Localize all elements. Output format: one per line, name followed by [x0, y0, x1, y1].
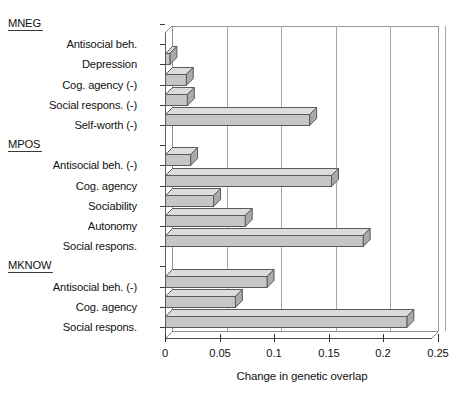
y-axis-tick [160, 266, 165, 267]
y-axis-category-label: Social respons. (-) [49, 99, 137, 111]
bar [165, 289, 244, 309]
x-axis-tick-label: 0.2 [375, 347, 390, 359]
bar [165, 168, 340, 188]
x-axis-line [165, 338, 432, 339]
y-axis-category-label: Social respons. [63, 240, 137, 252]
y-axis-category-label: Antisocial beh. [66, 38, 137, 50]
x-axis-floor-back-edge [172, 331, 438, 332]
x-axis-tick-0 [165, 334, 166, 342]
bar [165, 107, 318, 127]
y-axis-label-column: MNEGAntisocial beh.DepressionCog. agency… [0, 0, 140, 345]
y-axis-group-label-mknow: MKNOW [8, 259, 53, 273]
bar [165, 46, 178, 66]
bar [165, 67, 195, 87]
x-axis-tick-label: 0.05 [209, 347, 230, 359]
x-axis-tick-label: 0.15 [318, 347, 339, 359]
y-axis-tick [160, 44, 165, 45]
y-axis-category-label: Self-worth (-) [74, 119, 137, 131]
plot-wall-top-connector [165, 26, 174, 35]
y-axis-tick [160, 145, 165, 146]
gridline-x-0.25 [445, 26, 446, 331]
y-axis-category-label: Cog. agency (-) [62, 79, 137, 91]
x-axis-floor-left-edge [165, 331, 174, 340]
y-axis-category-label: Cog. agency [76, 180, 137, 192]
bar-chart: MNEGAntisocial beh.DepressionCog. agency… [0, 0, 458, 395]
bar [165, 309, 415, 329]
bar [165, 228, 372, 248]
y-axis-category-label: Sociability [88, 200, 137, 212]
x-axis-tick-label: 0.1 [266, 347, 281, 359]
y-axis-category-label: Antisocial beh. (-) [53, 281, 137, 293]
y-axis-category-label: Antisocial beh. (-) [53, 159, 137, 171]
x-axis-tick-0.15 [329, 334, 330, 342]
x-axis-tick-0.2 [383, 334, 384, 342]
y-axis-category-label: Social respons. [63, 321, 137, 333]
bar [165, 147, 199, 167]
x-axis-tick-0.25 [438, 334, 439, 342]
x-axis-tick-label: 0 [162, 347, 168, 359]
y-axis-tick [160, 24, 165, 25]
x-axis-tick-0.1 [274, 334, 275, 342]
x-axis-title: Change in genetic overlap [236, 370, 367, 383]
y-axis-category-label: Depression [82, 58, 137, 70]
gridline-x-0.2 [390, 26, 391, 331]
y-axis-group-label-mneg: MNEG [8, 17, 43, 31]
y-axis-group-label-mpos: MPOS [8, 138, 42, 152]
x-axis-tick-label: 0.25 [427, 347, 448, 359]
bar [165, 188, 222, 208]
bar [165, 87, 196, 107]
bar [165, 208, 254, 228]
bar [165, 269, 276, 289]
y-axis-category-label: Autonomy [88, 220, 137, 232]
x-axis-tick-0.05 [220, 334, 221, 342]
y-axis-category-label: Cog. agency [76, 301, 137, 313]
